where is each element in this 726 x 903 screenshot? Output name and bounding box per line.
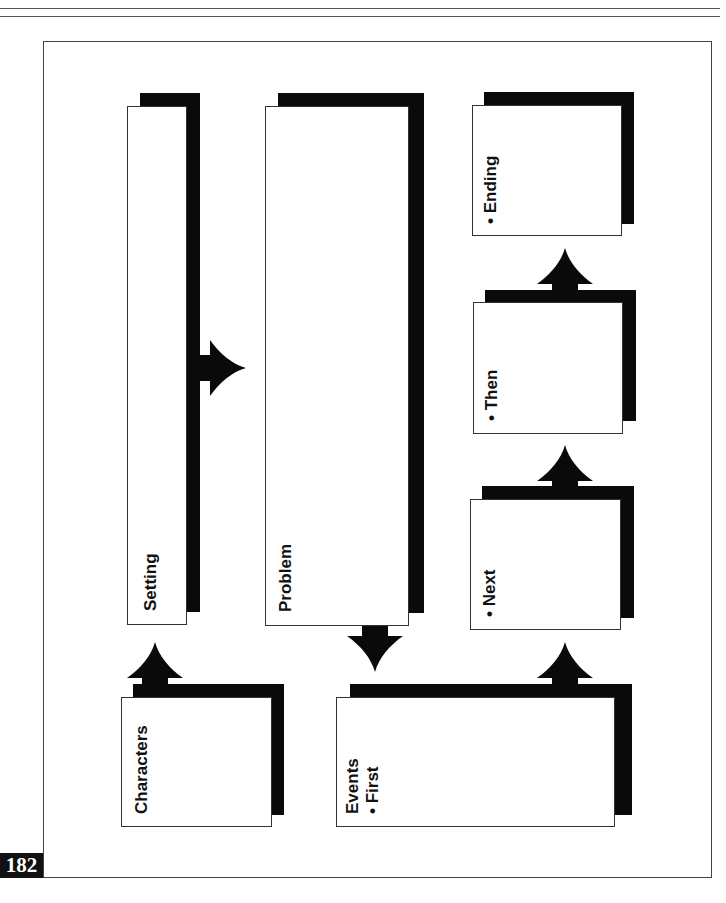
header-rule-bottom — [0, 16, 720, 17]
characters-box: Characters — [121, 697, 272, 827]
ending-label: • Ending — [481, 156, 501, 224]
problem-label: Problem — [276, 544, 296, 612]
then-box: • Then — [473, 302, 623, 434]
arrow-up-icon — [535, 248, 595, 293]
problem-box: Problem — [265, 106, 409, 626]
events-label: Events • First — [343, 758, 383, 814]
setting-label: Setting — [141, 553, 161, 611]
arrow-up-icon — [535, 445, 595, 490]
arrow-up-icon — [125, 642, 185, 687]
then-label: • Then — [482, 370, 502, 421]
next-box: • Next — [470, 499, 621, 630]
next-label: • Next — [480, 569, 500, 617]
page-number: 182 — [0, 853, 43, 878]
characters-label: Characters — [132, 725, 152, 814]
arrow-down-icon — [345, 626, 405, 672]
arrow-right-icon — [200, 338, 246, 398]
setting-box: Setting — [127, 106, 187, 625]
events-box: Events • First — [336, 697, 615, 827]
arrow-up-icon — [535, 642, 595, 687]
header-rule-top — [0, 8, 720, 9]
ending-box: • Ending — [472, 105, 622, 236]
